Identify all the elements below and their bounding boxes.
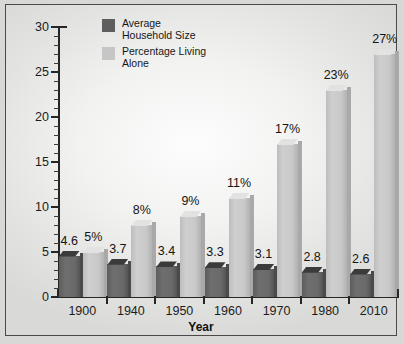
y-axis-minor-tick — [54, 153, 59, 154]
x-axis-end-cap — [57, 289, 59, 298]
chart-figure: Average Household Size Percentage Living… — [0, 0, 404, 344]
y-axis-minor-tick — [54, 54, 59, 55]
bar-front-face — [83, 252, 104, 297]
bar-living-alone-1950[interactable] — [180, 211, 201, 297]
y-axis-minor-tick — [54, 126, 59, 127]
x-axis-tick — [106, 296, 108, 304]
bar-value-label: 23% — [324, 68, 349, 82]
bar-front-face — [253, 269, 274, 297]
x-axis-tick-label: 1960 — [214, 304, 242, 318]
y-axis-minor-tick — [54, 234, 59, 235]
y-axis-minor-tick — [54, 225, 59, 226]
y-axis-minor-tick — [54, 36, 59, 37]
x-axis-tick — [203, 296, 205, 304]
bar-household-size-1970[interactable] — [253, 264, 274, 297]
y-axis-tick — [51, 71, 59, 73]
x-axis-end-cap — [397, 289, 399, 298]
y-axis-minor-tick — [54, 90, 59, 91]
bar-front-face — [302, 272, 323, 297]
y-axis-minor-tick — [54, 81, 59, 82]
y-axis-minor-tick — [54, 135, 59, 136]
bar-front-face — [350, 274, 371, 297]
x-axis-title: Year — [6, 320, 396, 334]
bar-value-label: 17% — [275, 122, 300, 136]
y-axis-tick-label: 0 — [42, 290, 49, 304]
bar-front-face — [229, 198, 250, 297]
bar-living-alone-2010[interactable] — [374, 49, 395, 297]
bar-value-label: 3.3 — [206, 245, 223, 259]
y-axis-tick-label: 30 — [35, 20, 49, 34]
x-axis-tick — [348, 296, 350, 304]
bar-value-label: 3.1 — [255, 247, 272, 261]
x-axis-tick-label: 1940 — [117, 304, 145, 318]
bar-value-label: 27% — [372, 32, 397, 46]
bar-front-face — [277, 144, 298, 297]
bar-front-face — [59, 256, 80, 297]
y-axis-tick — [51, 116, 59, 118]
bar-value-label: 5% — [84, 230, 102, 244]
bar-household-size-1950[interactable] — [156, 261, 177, 297]
y-axis-tick-label: 25 — [35, 65, 49, 79]
y-axis-tick — [51, 206, 59, 208]
x-axis-tick-label: 1980 — [311, 304, 339, 318]
y-axis-tick — [51, 161, 59, 163]
bar-front-face — [326, 90, 347, 297]
bar-value-label: 3.7 — [109, 242, 126, 256]
bar-living-alone-1940[interactable] — [131, 220, 152, 297]
y-axis-minor-tick — [54, 216, 59, 217]
bar-value-label: 8% — [133, 203, 151, 217]
bar-front-face — [131, 225, 152, 297]
y-axis-minor-tick — [54, 144, 59, 145]
bar-front-face — [205, 267, 226, 297]
y-axis-minor-tick — [54, 99, 59, 100]
bar-front-face — [180, 216, 201, 297]
bar-living-alone-1900[interactable] — [83, 247, 104, 297]
y-axis-tick-label: 20 — [35, 110, 49, 124]
bar-value-label: 2.8 — [303, 250, 320, 264]
bar-value-label: 4.6 — [61, 234, 78, 248]
bar-household-size-1980[interactable] — [302, 267, 323, 297]
y-axis-minor-tick — [54, 243, 59, 244]
bar-value-label: 3.4 — [158, 244, 175, 258]
y-axis-tick-label: 15 — [35, 155, 49, 169]
bar-living-alone-1960[interactable] — [229, 193, 250, 297]
bar-front-face — [374, 54, 395, 297]
y-axis-minor-tick — [54, 108, 59, 109]
x-axis-tick-label: 2010 — [360, 304, 388, 318]
chart-frame: Average Household Size Percentage Living… — [5, 4, 397, 336]
x-axis-tick-label: 1900 — [68, 304, 96, 318]
x-axis-tick — [251, 296, 253, 304]
bar-household-size-1960[interactable] — [205, 262, 226, 297]
bar-household-size-1940[interactable] — [107, 259, 128, 297]
bar-front-face — [156, 266, 177, 297]
x-axis-tick-label: 1950 — [166, 304, 194, 318]
y-axis-minor-tick — [54, 45, 59, 46]
bar-living-alone-1980[interactable] — [326, 85, 347, 297]
bar-side-face — [347, 87, 351, 297]
y-axis-minor-tick — [54, 180, 59, 181]
bar-value-label: 2.6 — [352, 252, 369, 266]
x-axis-tick-label: 1970 — [263, 304, 291, 318]
x-axis-tick — [154, 296, 156, 304]
y-axis-minor-tick — [54, 63, 59, 64]
bar-household-size-2010[interactable] — [350, 269, 371, 297]
y-axis-minor-tick — [54, 189, 59, 190]
y-axis-tick-label: 10 — [35, 200, 49, 214]
y-axis-tick-label: 5 — [42, 245, 49, 259]
y-axis-minor-tick — [54, 198, 59, 199]
bar-household-size-1900[interactable] — [59, 251, 80, 297]
bar-value-label: 11% — [227, 176, 251, 190]
bar-living-alone-1970[interactable] — [277, 139, 298, 297]
y-axis-minor-tick — [54, 171, 59, 172]
bar-side-face — [395, 51, 399, 297]
plot-area: 0510152025304.65%3.78%3.49%3.311%3.117%2… — [58, 27, 398, 297]
bar-front-face — [107, 264, 128, 297]
y-axis-tick — [51, 26, 59, 28]
bar-value-label: 9% — [181, 194, 199, 208]
x-axis-tick — [300, 296, 302, 304]
